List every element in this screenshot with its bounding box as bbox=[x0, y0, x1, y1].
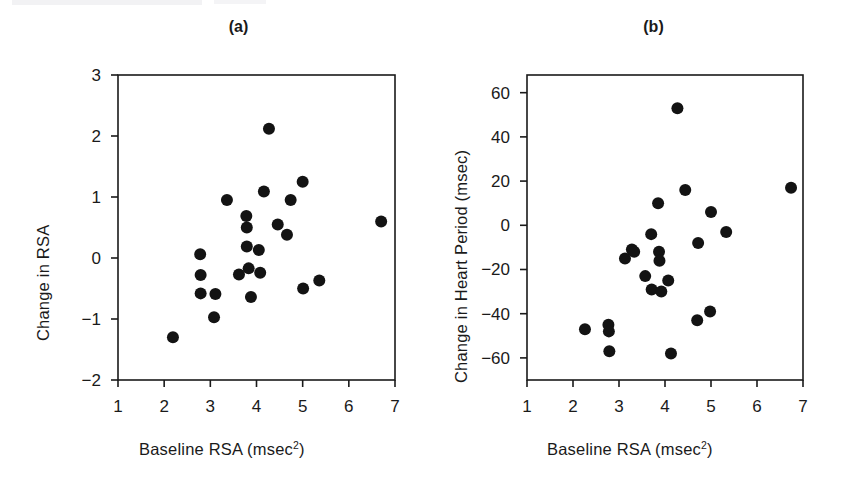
panel-a-x-axis-label: Baseline RSA (msec2) bbox=[139, 440, 305, 459]
data-point bbox=[194, 248, 206, 260]
data-point bbox=[221, 194, 233, 206]
panel-b-x-axis-label-text: Baseline RSA (msec bbox=[547, 440, 701, 458]
x-axis-tick-label: 1 bbox=[113, 397, 122, 416]
data-point bbox=[243, 262, 255, 274]
data-point bbox=[665, 347, 677, 359]
data-point bbox=[671, 102, 683, 114]
data-point bbox=[281, 229, 293, 241]
data-point bbox=[285, 194, 297, 206]
data-point bbox=[679, 184, 691, 196]
x-axis-tick-label: 4 bbox=[252, 397, 261, 416]
x-axis-tick-label: 3 bbox=[206, 397, 215, 416]
y-axis-tick-label: 3 bbox=[92, 66, 101, 85]
data-point bbox=[258, 186, 270, 198]
panel-b-x-axis-label: Baseline RSA (msec2) bbox=[547, 440, 713, 459]
y-axis-tick-label: −20 bbox=[481, 260, 510, 279]
data-point bbox=[263, 123, 275, 135]
data-point bbox=[195, 287, 207, 299]
data-point bbox=[785, 182, 797, 194]
panel-a-x-axis-label-text: Baseline RSA (msec bbox=[139, 440, 293, 458]
y-axis-tick-label: 1 bbox=[92, 188, 101, 207]
data-point bbox=[692, 237, 704, 249]
y-axis-tick-label: 0 bbox=[92, 249, 101, 268]
data-point bbox=[628, 246, 640, 258]
y-axis-tick-label: 40 bbox=[491, 128, 510, 147]
x-axis-tick-label: 7 bbox=[390, 397, 399, 416]
y-axis-tick-label: 20 bbox=[491, 172, 510, 191]
data-point bbox=[253, 244, 265, 256]
x-axis-tick-label: 6 bbox=[344, 397, 353, 416]
y-axis-tick-label: −60 bbox=[481, 349, 510, 368]
plot-frame bbox=[527, 75, 803, 380]
data-point bbox=[645, 228, 657, 240]
data-point bbox=[209, 288, 221, 300]
data-point bbox=[241, 222, 253, 234]
x-axis-tick-label: 2 bbox=[159, 397, 168, 416]
data-point bbox=[720, 226, 732, 238]
x-axis-tick-label: 2 bbox=[568, 397, 577, 416]
data-point bbox=[705, 206, 717, 218]
data-point bbox=[297, 283, 309, 295]
data-point bbox=[241, 240, 253, 252]
data-point bbox=[639, 270, 651, 282]
x-axis-tick-label: 4 bbox=[660, 397, 669, 416]
x-axis-tick-label: 5 bbox=[706, 397, 715, 416]
x-axis-tick-label: 6 bbox=[752, 397, 761, 416]
x-axis-tick-label: 3 bbox=[614, 397, 623, 416]
data-point bbox=[652, 197, 664, 209]
panel-b-y-axis-label: Change in Heart Period (msec) bbox=[452, 150, 471, 383]
x-axis-tick-label: 7 bbox=[798, 397, 807, 416]
panel-a: (a) 12345673210−1−2 Change in RSA Baseli… bbox=[0, 0, 421, 488]
figure-container: (a) 12345673210−1−2 Change in RSA Baseli… bbox=[0, 0, 843, 488]
data-point bbox=[691, 314, 703, 326]
data-point bbox=[603, 325, 615, 337]
y-axis-tick-label: −2 bbox=[82, 371, 101, 390]
y-axis-tick-label: 0 bbox=[501, 216, 510, 235]
x-axis-tick-label: 1 bbox=[522, 397, 531, 416]
data-point bbox=[662, 275, 674, 287]
y-axis-tick-label: −40 bbox=[481, 305, 510, 324]
plot-frame bbox=[118, 75, 395, 380]
data-point bbox=[195, 269, 207, 281]
data-point bbox=[208, 311, 220, 323]
data-point bbox=[245, 291, 257, 303]
panel-a-y-axis-label: Change in RSA bbox=[34, 225, 53, 341]
panel-a-x-axis-label-tail: ) bbox=[299, 440, 305, 458]
data-point bbox=[655, 286, 667, 298]
data-point bbox=[653, 255, 665, 267]
data-point bbox=[297, 176, 309, 188]
y-axis-tick-label: 60 bbox=[491, 84, 510, 103]
panel-b-plot: 12345676040200−20−40−60 bbox=[421, 0, 842, 420]
y-axis-tick-label: 2 bbox=[92, 127, 101, 146]
data-point bbox=[254, 267, 266, 279]
data-point bbox=[704, 305, 716, 317]
data-point bbox=[167, 331, 179, 343]
data-point bbox=[240, 210, 252, 222]
panel-b-x-axis-label-tail: ) bbox=[707, 440, 713, 458]
panel-b: (b) 12345676040200−20−40−60 Change in He… bbox=[421, 0, 842, 488]
data-point bbox=[272, 218, 284, 230]
y-axis-tick-label: −1 bbox=[82, 310, 101, 329]
x-axis-tick-label: 5 bbox=[298, 397, 307, 416]
panel-a-plot: 12345673210−1−2 bbox=[0, 0, 421, 420]
data-point bbox=[579, 323, 591, 335]
data-point bbox=[603, 345, 615, 357]
data-point bbox=[313, 275, 325, 287]
data-point bbox=[375, 215, 387, 227]
